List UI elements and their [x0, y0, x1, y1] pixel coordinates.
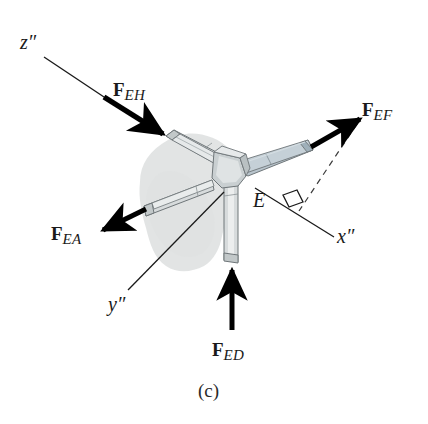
force-symbol-ea: F — [51, 223, 63, 244]
force-subscript-ed: ED — [224, 347, 244, 363]
force-subscript-ea: EA — [63, 231, 82, 247]
axis-label-y: y″ — [108, 294, 125, 314]
axis-label-x: x″ — [337, 226, 354, 246]
force-vector-ef — [311, 119, 360, 147]
force-label-ef: FEF — [362, 100, 392, 123]
figure-caption: (c) — [198, 381, 219, 400]
force-label-ed: FED — [212, 340, 244, 363]
member-right — [240, 140, 313, 176]
axis-label-z: z″ — [20, 32, 36, 52]
point-label-e: E — [253, 190, 265, 210]
right-angle-marker — [283, 190, 303, 207]
force-symbol-ef: F — [362, 99, 374, 120]
force-label-eh: FEH — [113, 80, 145, 103]
force-subscript-ef: EF — [374, 107, 393, 123]
force-symbol-eh: F — [113, 79, 125, 100]
axis-line-x — [255, 188, 334, 237]
axis-line-z — [44, 57, 113, 103]
force-vector-ea — [103, 209, 146, 230]
member-down — [224, 184, 238, 263]
force-label-ea: FEA — [51, 224, 81, 247]
figure-container: z″ x″ y″ E FEH FEF FEA FED (c) — [0, 0, 428, 424]
force-subscript-eh: EH — [125, 87, 145, 103]
joint-hub — [212, 146, 250, 188]
force-symbol-ed: F — [212, 339, 224, 360]
